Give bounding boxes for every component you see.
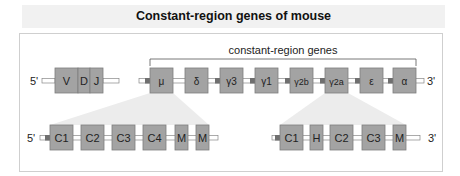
- mu-c4-label: C4: [147, 132, 161, 144]
- mu-m2-label: M: [198, 132, 207, 144]
- dna-strand: [42, 79, 55, 84]
- gamma2a-expansion-fan: [280, 93, 406, 125]
- gamma2a-c1-label: C1: [284, 132, 298, 144]
- bottom-left-five-prime-label: 5': [27, 132, 35, 144]
- gamma2a-c2-label: C2: [334, 132, 348, 144]
- epsilon-label: ε: [369, 76, 374, 87]
- mu-c1-label: C1: [54, 132, 68, 144]
- v-label: V: [63, 75, 71, 87]
- gamma2a-label: γ2a: [329, 77, 344, 87]
- bracket-label: constant-region genes: [229, 44, 338, 56]
- gamma2a-m-label: M: [395, 132, 404, 144]
- gamma2b-label: γ2b: [294, 77, 309, 87]
- top-five-prime-label: 5': [30, 75, 38, 87]
- gamma1-label: γ1: [261, 76, 272, 87]
- dna-strand: [103, 79, 119, 84]
- delta-label: δ: [194, 76, 200, 87]
- mu-c3-label: C3: [116, 132, 130, 144]
- gene-diagram: constant-region genes 5' V D J μ δ γ3 γ1…: [0, 0, 460, 176]
- switch-region: [45, 135, 50, 141]
- mu-label: μ: [159, 76, 165, 87]
- top-three-prime-label: 3': [427, 75, 435, 87]
- constant-region-bracket: [150, 59, 416, 66]
- gamma2a-c3-label: C3: [366, 132, 380, 144]
- d-label: D: [80, 75, 88, 87]
- gamma2a-h-label: H: [313, 132, 321, 144]
- mu-m1-label: M: [177, 132, 186, 144]
- switch-region: [275, 135, 280, 141]
- mu-c2-label: C2: [85, 132, 99, 144]
- mu-expansion-fan: [50, 93, 209, 125]
- j-label: J: [94, 75, 100, 87]
- gamma3-label: γ3: [226, 76, 237, 87]
- bottom-right-three-prime-label: 3': [428, 132, 436, 144]
- alpha-label: α: [402, 76, 408, 87]
